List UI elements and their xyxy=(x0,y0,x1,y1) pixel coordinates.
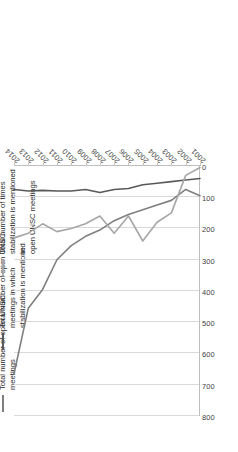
legend-swatch-icon xyxy=(2,333,4,350)
series-lines xyxy=(14,166,200,416)
plot-area xyxy=(14,166,200,416)
value-tick-label: 0 xyxy=(202,163,206,172)
value-tick-label: 700 xyxy=(202,382,215,391)
legend-swatch-icon xyxy=(2,395,4,412)
category-tick-label: 2003 xyxy=(161,147,179,165)
category-tick-label: 2010 xyxy=(60,147,78,165)
value-tick-label: 500 xyxy=(202,319,215,328)
chart-canvas: Total number of open UNSC meetingsTotal … xyxy=(0,0,238,452)
category-tick-label: 2002 xyxy=(175,147,193,165)
value-tick-label: 100 xyxy=(202,194,215,203)
value-axis: 8007006005004003002001000 xyxy=(202,166,236,416)
category-axis: 2001200220032004200520062007200820092010… xyxy=(14,126,200,166)
category-tick-label: 2005 xyxy=(132,147,150,165)
chart-figure: Total number of open UNSC meetingsTotal … xyxy=(0,0,238,452)
category-tick-label: 2009 xyxy=(75,147,93,165)
legend-swatch-icon xyxy=(2,259,4,276)
category-tick-label: 2013 xyxy=(18,147,36,165)
category-tick-label: 2006 xyxy=(118,147,136,165)
value-tick-label: 300 xyxy=(202,257,215,266)
series-line-3 xyxy=(14,168,200,241)
category-tick-label: 2012 xyxy=(32,147,50,165)
category-tick-label: 2008 xyxy=(89,147,107,165)
series-line-2 xyxy=(14,179,200,193)
value-tick-label: 800 xyxy=(202,413,215,422)
value-tick-label: 600 xyxy=(202,351,215,360)
series-line-1 xyxy=(14,189,200,373)
value-tick-label: 400 xyxy=(202,288,215,297)
value-tick-label: 200 xyxy=(202,226,215,235)
